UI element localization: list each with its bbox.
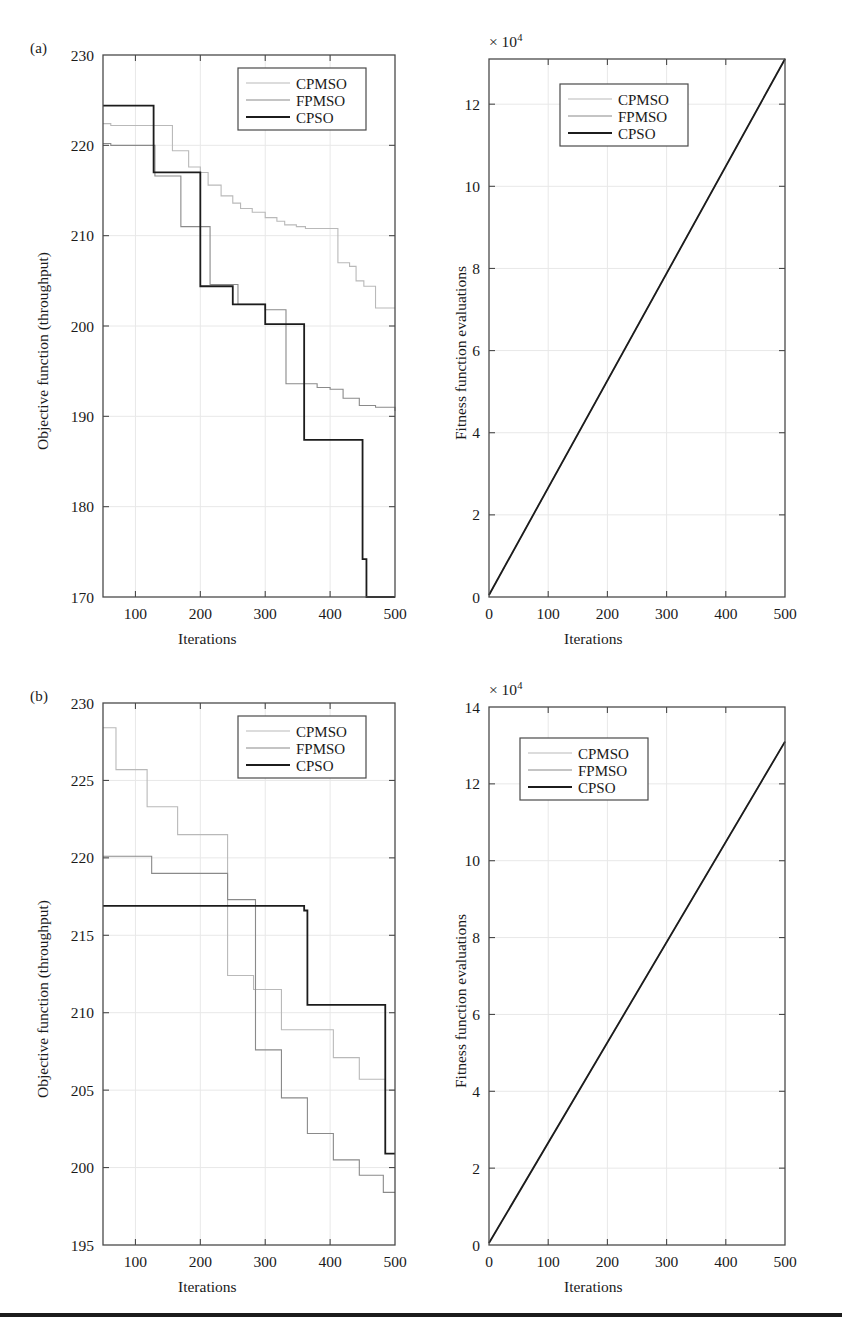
- chart-a-right: 0100200300400500024681012CPMSOFPMSOCPSO: [420, 0, 842, 640]
- svg-text:500: 500: [773, 1253, 797, 1270]
- chart-b-left-svg: 100200300400500195200205210215220225230C…: [0, 648, 430, 1288]
- svg-text:6: 6: [472, 1006, 480, 1023]
- svg-text:500: 500: [773, 605, 797, 622]
- svg-text:400: 400: [318, 1253, 342, 1270]
- svg-text:6: 6: [472, 342, 480, 359]
- svg-text:220: 220: [71, 849, 95, 866]
- svg-text:500: 500: [383, 1253, 407, 1270]
- svg-text:10: 10: [465, 852, 481, 869]
- svg-text:0: 0: [485, 605, 493, 622]
- svg-text:CPMSO: CPMSO: [618, 92, 669, 108]
- svg-text:220: 220: [71, 137, 95, 154]
- svg-text:FPMSO: FPMSO: [578, 763, 627, 779]
- svg-text:200: 200: [596, 1253, 620, 1270]
- svg-text:0: 0: [485, 1253, 493, 1270]
- svg-text:0: 0: [472, 1237, 480, 1254]
- svg-text:210: 210: [71, 1004, 95, 1021]
- panel-b: (b) Objective function (throughput) Iter…: [0, 648, 842, 1308]
- svg-text:400: 400: [714, 605, 738, 622]
- svg-text:100: 100: [124, 1253, 148, 1270]
- svg-text:100: 100: [124, 605, 148, 622]
- svg-text:12: 12: [465, 96, 481, 113]
- svg-text:230: 230: [71, 47, 95, 64]
- svg-text:205: 205: [71, 1082, 95, 1099]
- svg-text:CPSO: CPSO: [578, 780, 616, 796]
- chart-a-right-svg: 0100200300400500024681012CPMSOFPMSOCPSO: [420, 0, 842, 640]
- svg-text:14: 14: [465, 699, 481, 716]
- svg-text:210: 210: [71, 227, 95, 244]
- chart-b-right-svg: 010020030040050002468101214CPMSOFPMSOCPS…: [420, 648, 842, 1288]
- svg-text:0: 0: [472, 589, 480, 606]
- svg-text:8: 8: [472, 929, 480, 946]
- legend: CPMSOFPMSOCPSO: [238, 68, 366, 130]
- svg-text:2: 2: [472, 506, 480, 523]
- svg-text:300: 300: [254, 1253, 278, 1270]
- chart-a-left-svg: 100200300400500170180190200210220230CPMS…: [0, 0, 430, 640]
- svg-text:12: 12: [465, 775, 481, 792]
- figure-root: (a) Objective function (throughput) Iter…: [0, 0, 842, 1344]
- chart-b-left: 100200300400500195200205210215220225230C…: [0, 648, 430, 1288]
- svg-text:FPMSO: FPMSO: [296, 93, 345, 109]
- svg-text:CPSO: CPSO: [296, 110, 334, 126]
- svg-text:180: 180: [71, 498, 95, 515]
- chart-a-left: 100200300400500170180190200210220230CPMS…: [0, 0, 430, 640]
- svg-text:300: 300: [655, 605, 679, 622]
- svg-text:400: 400: [714, 1253, 738, 1270]
- bottom-rule: [0, 1313, 842, 1317]
- svg-text:8: 8: [472, 260, 480, 277]
- svg-text:195: 195: [71, 1237, 95, 1254]
- svg-text:4: 4: [472, 1083, 480, 1100]
- svg-text:100: 100: [537, 605, 561, 622]
- svg-text:100: 100: [537, 1253, 561, 1270]
- svg-text:10: 10: [465, 178, 481, 195]
- legend: CPMSOFPMSOCPSO: [238, 716, 366, 778]
- svg-text:200: 200: [71, 1159, 95, 1176]
- svg-text:300: 300: [655, 1253, 679, 1270]
- chart-b-right: 010020030040050002468101214CPMSOFPMSOCPS…: [420, 648, 842, 1288]
- svg-text:500: 500: [383, 605, 407, 622]
- svg-text:FPMSO: FPMSO: [618, 109, 667, 125]
- svg-text:CPMSO: CPMSO: [578, 746, 629, 762]
- svg-text:200: 200: [189, 605, 213, 622]
- svg-text:190: 190: [71, 408, 95, 425]
- svg-text:200: 200: [596, 605, 620, 622]
- svg-text:170: 170: [71, 589, 95, 606]
- svg-text:CPMSO: CPMSO: [296, 76, 347, 92]
- svg-text:FPMSO: FPMSO: [296, 741, 345, 757]
- svg-text:230: 230: [71, 695, 95, 712]
- svg-text:CPSO: CPSO: [296, 758, 334, 774]
- svg-text:CPMSO: CPMSO: [296, 724, 347, 740]
- svg-text:400: 400: [318, 605, 342, 622]
- svg-text:200: 200: [189, 1253, 213, 1270]
- svg-text:215: 215: [71, 927, 95, 944]
- svg-text:300: 300: [254, 605, 278, 622]
- svg-text:225: 225: [71, 772, 95, 789]
- panel-a: (a) Objective function (throughput) Iter…: [0, 0, 842, 660]
- svg-text:2: 2: [472, 1160, 480, 1177]
- svg-text:CPSO: CPSO: [618, 126, 656, 142]
- svg-text:200: 200: [71, 318, 95, 335]
- svg-text:4: 4: [472, 424, 480, 441]
- legend: CPMSOFPMSOCPSO: [560, 84, 688, 146]
- legend: CPMSOFPMSOCPSO: [520, 738, 648, 800]
